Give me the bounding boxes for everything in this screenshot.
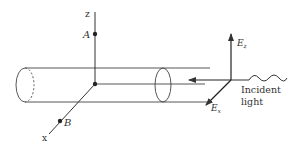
x-axis: [49, 84, 95, 134]
diagram-canvas: z A x B Ez Ex Incident light: [0, 0, 298, 147]
incident-label-line2: light: [241, 96, 263, 107]
incident-wave-icon: [231, 75, 287, 81]
x-axis-label: x: [42, 133, 47, 143]
ex-label: Ex: [210, 103, 222, 114]
point-a-dot: [93, 32, 97, 36]
cylinder-left-ellipse-back: [25, 68, 34, 102]
point-a-label: A: [82, 29, 90, 40]
ez-label: Ez: [236, 38, 248, 49]
incident-label-line1: Incident: [241, 84, 281, 95]
cylinder: [16, 68, 210, 102]
ex-arrow: [206, 80, 231, 105]
cylinder-right-ellipse: [155, 68, 171, 102]
cylinder-left-ellipse-front: [16, 68, 25, 102]
point-b-label: B: [63, 117, 71, 128]
point-b-dot: [58, 119, 62, 123]
z-axis-label: z: [85, 9, 90, 19]
